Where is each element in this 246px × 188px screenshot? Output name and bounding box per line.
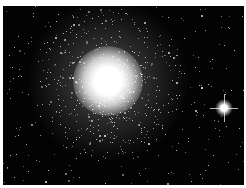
- star: [226, 68, 227, 69]
- star: [90, 90, 91, 91]
- star: [107, 152, 108, 153]
- star: [9, 55, 10, 56]
- star: [28, 171, 29, 172]
- star: [98, 105, 100, 107]
- star: [141, 128, 142, 129]
- star: [223, 90, 224, 91]
- star: [199, 71, 200, 72]
- star: [106, 67, 107, 68]
- star: [125, 79, 126, 80]
- star: [168, 17, 169, 18]
- star: [99, 140, 101, 142]
- star: [91, 99, 92, 100]
- star: [65, 127, 66, 128]
- star: [218, 121, 219, 122]
- star: [215, 128, 216, 129]
- star: [31, 41, 32, 42]
- star: [112, 90, 113, 91]
- star: [118, 84, 119, 85]
- star: [212, 68, 213, 69]
- star: [102, 116, 103, 117]
- star: [171, 39, 172, 40]
- star: [91, 155, 92, 156]
- star: [109, 78, 110, 79]
- star: [195, 67, 196, 68]
- star: [54, 154, 55, 155]
- star: [182, 129, 183, 130]
- star: [100, 86, 101, 87]
- star: [80, 153, 81, 154]
- star: [197, 112, 198, 113]
- star: [79, 61, 81, 63]
- star: [136, 78, 137, 79]
- star: [112, 122, 113, 123]
- star: [123, 140, 124, 141]
- star: [60, 46, 61, 47]
- star: [107, 91, 108, 92]
- star: [69, 165, 70, 166]
- star: [121, 96, 122, 97]
- star: [201, 15, 203, 17]
- star: [101, 12, 102, 13]
- star: [172, 146, 173, 147]
- star: [193, 55, 194, 56]
- star: [87, 128, 88, 129]
- star: [114, 76, 115, 77]
- star: [10, 81, 11, 82]
- star: [114, 73, 116, 75]
- star: [190, 87, 191, 88]
- star: [92, 69, 93, 70]
- star: [145, 62, 146, 63]
- star: [158, 155, 159, 156]
- star: [98, 75, 99, 76]
- star: [179, 71, 180, 72]
- star: [28, 43, 29, 44]
- star: [99, 47, 100, 48]
- star: [132, 120, 133, 121]
- star: [13, 78, 14, 79]
- star: [104, 100, 105, 101]
- star: [234, 50, 235, 51]
- star: [189, 174, 190, 175]
- star: [129, 92, 130, 93]
- star: [129, 143, 130, 144]
- star: [114, 138, 115, 139]
- star: [84, 67, 85, 68]
- star: [60, 85, 61, 86]
- star: [123, 153, 124, 154]
- star: [77, 17, 78, 18]
- star: [62, 53, 63, 54]
- star: [58, 95, 59, 96]
- star: [86, 129, 87, 130]
- star: [102, 99, 103, 100]
- star: [221, 27, 222, 28]
- star: [213, 155, 214, 156]
- star: [162, 127, 163, 128]
- star: [94, 38, 95, 39]
- star: [102, 139, 103, 140]
- star: [73, 24, 75, 26]
- star: [195, 110, 197, 112]
- star: [176, 150, 177, 151]
- star: [108, 69, 109, 70]
- star: [107, 58, 108, 59]
- star: [99, 99, 100, 100]
- star: [111, 113, 112, 114]
- star: [65, 132, 66, 133]
- star: [35, 6, 36, 7]
- star: [99, 102, 101, 104]
- star: [63, 33, 64, 34]
- star: [4, 182, 5, 183]
- star: [169, 65, 170, 66]
- star: [33, 16, 34, 17]
- star: [240, 146, 241, 147]
- star: [219, 44, 220, 45]
- star: [100, 112, 101, 113]
- star: [114, 81, 115, 82]
- star: [133, 65, 134, 66]
- star: [135, 70, 136, 71]
- star: [114, 87, 115, 88]
- star: [98, 160, 99, 161]
- star: [31, 124, 33, 126]
- star: [125, 86, 126, 87]
